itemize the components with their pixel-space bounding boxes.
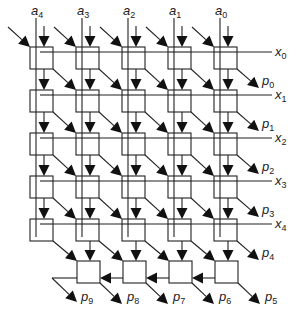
column-input-label: a0 bbox=[215, 3, 227, 20]
row-input-label: x0 bbox=[274, 44, 287, 61]
carry-in-arrow-shaft bbox=[53, 198, 68, 212]
multiplier-cell bbox=[122, 47, 145, 69]
right-output-arrow-shaft bbox=[237, 112, 251, 124]
bottom-output-arrow-shaft bbox=[52, 278, 69, 294]
multiplier-cell bbox=[76, 47, 99, 69]
final-carry-in-arrow-shaft bbox=[53, 241, 69, 254]
carry-in-arrow-shaft bbox=[145, 69, 160, 83]
carry-in-arrow-shaft bbox=[53, 112, 68, 126]
multiplier-cell bbox=[214, 219, 237, 241]
multiplier-cell bbox=[76, 176, 99, 198]
column-input-label: a1 bbox=[169, 3, 181, 20]
final-adder-cell bbox=[169, 261, 192, 283]
sum-in-arrow-head-icon bbox=[39, 36, 50, 47]
multiplier-cell bbox=[214, 133, 237, 155]
sum-in-arrow-head-icon bbox=[39, 208, 50, 219]
final-adder-cell bbox=[215, 261, 238, 283]
right-output-arrow-head-icon bbox=[247, 77, 259, 88]
carry-in-arrow-shaft bbox=[53, 155, 68, 169]
right-output-label: p0 bbox=[261, 73, 274, 90]
multiplier-cell bbox=[214, 90, 237, 112]
sum-in-arrow-head-icon bbox=[131, 165, 142, 176]
final-adder-cell bbox=[123, 261, 146, 283]
sum-in-arrow-head-icon bbox=[131, 208, 142, 219]
multiplier-cell bbox=[122, 176, 145, 198]
final-sum-in-arrow-head-icon bbox=[177, 250, 188, 261]
bottom-output-arrow-shaft bbox=[100, 283, 114, 296]
carry-in-arrow-shaft bbox=[99, 155, 114, 169]
right-output-arrow-shaft bbox=[237, 198, 251, 210]
carry-in-arrow-shaft bbox=[192, 27, 206, 40]
multiplier-cell bbox=[122, 90, 145, 112]
sum-in-arrow-head-icon bbox=[39, 165, 50, 176]
carry-in-arrow-shaft bbox=[191, 155, 206, 169]
multiplier-cell bbox=[168, 47, 191, 69]
sum-in-arrow-head-icon bbox=[39, 79, 50, 90]
right-output-label: p2 bbox=[261, 159, 274, 176]
row-input-label: x3 bbox=[274, 173, 287, 190]
carry-in-arrow-shaft bbox=[99, 69, 114, 83]
sum-in-arrow-head-icon bbox=[85, 79, 96, 90]
multiplier-cell bbox=[30, 90, 53, 112]
sum-in-arrow-head-icon bbox=[223, 122, 234, 133]
sum-in-arrow-head-icon bbox=[223, 79, 234, 90]
multiplier-cell bbox=[122, 219, 145, 241]
carry-in-arrow-shaft bbox=[100, 27, 114, 40]
multiplier-cell bbox=[214, 176, 237, 198]
multiplier-cell bbox=[30, 133, 53, 155]
carry-in-arrow-shaft bbox=[8, 27, 22, 40]
multiplier-cell bbox=[76, 90, 99, 112]
row-input-label: x4 bbox=[274, 216, 287, 233]
ripple-carry-arrow-head-icon bbox=[100, 273, 111, 284]
carry-in-arrow-shaft bbox=[145, 155, 160, 169]
carry-in-arrow-shaft bbox=[145, 198, 160, 212]
column-input-label: a2 bbox=[123, 3, 135, 20]
final-carry-in-arrow-shaft bbox=[145, 241, 161, 254]
final-carry-in-arrow-head-icon bbox=[157, 250, 169, 261]
right-output-arrow-shaft bbox=[237, 241, 251, 253]
multiplier-cell bbox=[214, 47, 237, 69]
sum-in-arrow-head-icon bbox=[177, 165, 188, 176]
final-sum-in-arrow-head-icon bbox=[131, 250, 142, 261]
sum-in-arrow-head-icon bbox=[177, 208, 188, 219]
sum-in-arrow-head-icon bbox=[131, 36, 142, 47]
multiplier-cell bbox=[168, 133, 191, 155]
bottom-output-label: p7 bbox=[172, 289, 185, 306]
carry-in-arrow-shaft bbox=[99, 112, 114, 126]
sum-in-arrow-head-icon bbox=[85, 122, 96, 133]
right-output-arrow-head-icon bbox=[247, 120, 259, 131]
multiplier-cell bbox=[76, 133, 99, 155]
right-output-arrow-shaft bbox=[237, 155, 251, 167]
labels: a4a3a2a1a0x0x1x2x3x4p0p1p2p3p4p9p8p7p6p5 bbox=[31, 3, 287, 306]
sum-in-arrow-head-icon bbox=[177, 36, 188, 47]
sum-in-arrow-head-icon bbox=[85, 36, 96, 47]
carry-in-arrow-shaft bbox=[146, 27, 160, 40]
sum-in-arrow-head-icon bbox=[85, 165, 96, 176]
multiplier-cell bbox=[168, 90, 191, 112]
row-input-label: x1 bbox=[274, 87, 287, 104]
column-input-label: a3 bbox=[77, 3, 89, 20]
multiplier-cell bbox=[168, 176, 191, 198]
final-sum-in-arrow-head-icon bbox=[85, 250, 96, 261]
final-sum-in-arrow-head-icon bbox=[223, 250, 234, 261]
right-output-label: p3 bbox=[261, 202, 274, 219]
column-input-label: a4 bbox=[31, 3, 43, 20]
carry-in-arrow-shaft bbox=[191, 69, 206, 83]
final-carry-in-arrow-head-icon bbox=[65, 250, 77, 261]
bottom-output-label: p9 bbox=[80, 289, 93, 306]
ripple-carry-arrow-head-icon bbox=[192, 273, 203, 284]
right-output-label: p4 bbox=[261, 245, 274, 262]
ripple-carry-arrow-head-icon bbox=[146, 273, 157, 284]
right-output-arrow-shaft bbox=[237, 69, 251, 81]
carry-in-arrow-shaft bbox=[191, 112, 206, 126]
final-carry-in-arrow-head-icon bbox=[203, 250, 215, 261]
final-carry-in-arrow-head-icon bbox=[111, 250, 123, 261]
sum-in-arrow-head-icon bbox=[131, 122, 142, 133]
final-adder-cell bbox=[77, 261, 100, 283]
right-output-arrow-head-icon bbox=[247, 163, 259, 174]
sum-in-arrow-head-icon bbox=[223, 36, 234, 47]
multiplier-cell bbox=[76, 219, 99, 241]
sum-in-arrow-head-icon bbox=[85, 208, 96, 219]
bottom-output-label: p5 bbox=[264, 289, 277, 306]
bottom-output-arrow-shaft bbox=[238, 283, 252, 296]
